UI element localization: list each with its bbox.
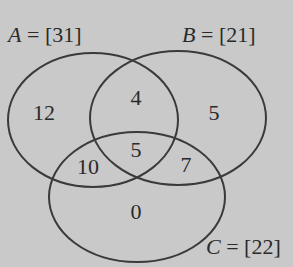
region-a-b-only: 4: [131, 87, 142, 109]
set-a-total: [31]: [45, 22, 82, 47]
region-a-only: 12: [33, 102, 55, 124]
region-a-c-only: 10: [77, 156, 99, 178]
set-c-name: C: [206, 234, 221, 259]
set-b-total: [21]: [219, 22, 256, 47]
set-b-name: B: [182, 22, 195, 47]
set-c-total: [22]: [244, 234, 281, 259]
set-a-name: A: [8, 22, 21, 47]
region-c-only: 0: [131, 201, 142, 223]
region-b-c-only: 7: [181, 154, 192, 176]
region-b-only: 5: [209, 102, 220, 124]
region-a-b-c: 5: [131, 139, 142, 161]
set-a-label: A = [31]: [8, 24, 82, 46]
set-c-label: C = [22]: [206, 236, 281, 258]
set-a-eq: =: [21, 22, 44, 47]
set-c-eq: =: [221, 234, 244, 259]
set-b-label: B = [21]: [182, 24, 256, 46]
set-b-eq: =: [195, 22, 218, 47]
